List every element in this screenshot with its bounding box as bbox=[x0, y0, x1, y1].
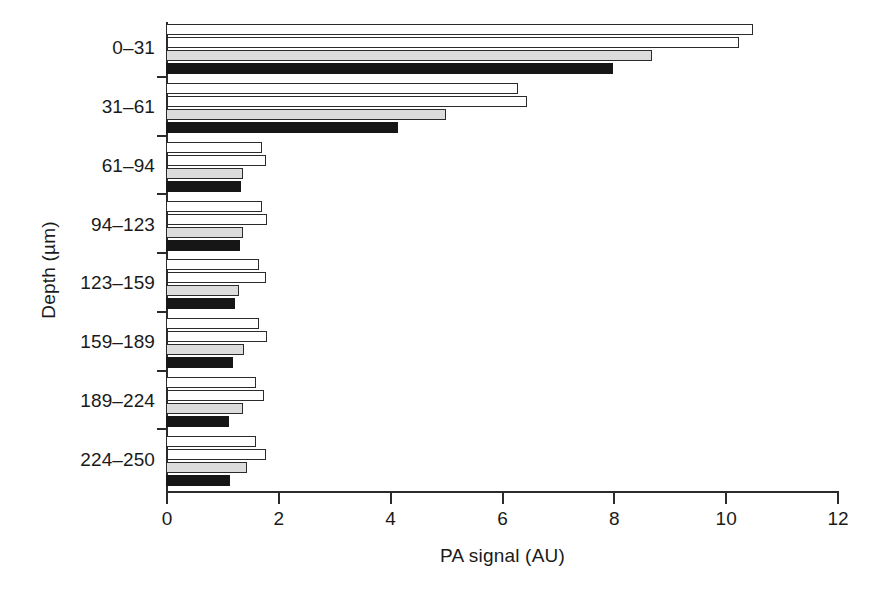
bar-white bbox=[166, 142, 262, 153]
bar-group: 159–189 bbox=[166, 318, 837, 368]
x-axis-tick bbox=[613, 493, 615, 504]
x-axis-tick bbox=[502, 493, 504, 504]
x-axis-tick-label: 4 bbox=[368, 508, 414, 530]
x-axis-tick-label: 12 bbox=[815, 508, 861, 530]
bar-group: 0–31 bbox=[166, 24, 837, 74]
bar-gray bbox=[166, 227, 243, 238]
y-axis-minor-tick bbox=[157, 76, 166, 78]
y-axis-tick-label: 31–61 bbox=[0, 96, 155, 118]
bar-group: 224–250 bbox=[166, 436, 837, 486]
bar-black bbox=[166, 416, 229, 427]
y-axis-minor-tick bbox=[157, 428, 166, 430]
x-axis-tick-label: 10 bbox=[703, 508, 749, 530]
bar-hatched bbox=[166, 331, 267, 342]
x-axis-tick-label: 8 bbox=[591, 508, 637, 530]
x-axis-title: PA signal (AU) bbox=[166, 545, 839, 567]
y-axis-tick-label: 224–250 bbox=[0, 449, 155, 471]
x-axis-tick-label: 6 bbox=[480, 508, 526, 530]
bar-white bbox=[166, 259, 259, 270]
x-axis-tick bbox=[166, 493, 168, 504]
y-axis-tick-label: 189–224 bbox=[0, 390, 155, 412]
bar-black bbox=[166, 240, 240, 251]
bar-hatched bbox=[166, 449, 266, 460]
bar-white bbox=[166, 436, 256, 447]
y-axis-tick-label: 123–159 bbox=[0, 272, 155, 294]
bar-group: 94–123 bbox=[166, 201, 837, 251]
x-axis-tick bbox=[278, 493, 280, 504]
bar-black bbox=[166, 475, 230, 486]
bar-group: 61–94 bbox=[166, 142, 837, 192]
bar-black bbox=[166, 63, 613, 74]
bar-group: 31–61 bbox=[166, 83, 837, 133]
bar-hatched bbox=[166, 390, 264, 401]
bar-white bbox=[166, 24, 753, 35]
bar-gray bbox=[166, 403, 243, 414]
bar-white bbox=[166, 201, 262, 212]
y-axis-tick-label: 94–123 bbox=[0, 214, 155, 236]
y-axis-tick-label: 0–31 bbox=[0, 37, 155, 59]
bar-gray bbox=[166, 285, 239, 296]
bar-black bbox=[166, 298, 235, 309]
x-axis-tick bbox=[837, 493, 839, 504]
bar-white bbox=[166, 83, 518, 94]
bar-white bbox=[166, 318, 259, 329]
plot-area: 0–3131–6161–9494–123123–159159–189189–22… bbox=[166, 22, 837, 492]
bar-black bbox=[166, 181, 241, 192]
y-axis-minor-tick bbox=[157, 252, 166, 254]
y-axis-minor-tick bbox=[157, 135, 166, 137]
bar-hatched bbox=[166, 96, 527, 107]
bar-group: 189–224 bbox=[166, 377, 837, 427]
bar-hatched bbox=[166, 155, 266, 166]
y-axis-minor-tick bbox=[157, 370, 166, 372]
x-axis-tick bbox=[725, 493, 727, 504]
bar-gray bbox=[166, 344, 244, 355]
bar-gray bbox=[166, 462, 247, 473]
bar-black bbox=[166, 122, 398, 133]
bar-hatched bbox=[166, 272, 266, 283]
y-axis-tick-label: 61–94 bbox=[0, 155, 155, 177]
bar-hatched bbox=[166, 214, 267, 225]
x-axis-tick-label: 0 bbox=[144, 508, 190, 530]
x-axis-tick-label: 2 bbox=[256, 508, 302, 530]
y-axis-minor-tick bbox=[157, 193, 166, 195]
bar-hatched bbox=[166, 37, 739, 48]
bar-white bbox=[166, 377, 256, 388]
bar-gray bbox=[166, 109, 446, 120]
bar-black bbox=[166, 357, 233, 368]
chart-figure: Depth (µm) 0–3131–6161–9494–123123–15915… bbox=[0, 0, 888, 603]
bar-gray bbox=[166, 50, 652, 61]
bar-group: 123–159 bbox=[166, 259, 837, 309]
y-axis-minor-tick bbox=[157, 311, 166, 313]
bar-gray bbox=[166, 168, 243, 179]
y-axis-tick-label: 159–189 bbox=[0, 331, 155, 353]
x-axis-tick bbox=[390, 493, 392, 504]
